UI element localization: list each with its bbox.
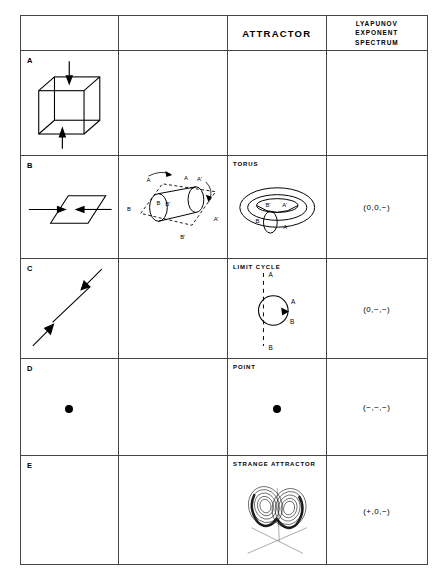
header-label-attractor: ATTRACTOR [228, 28, 326, 39]
table-header-row: ATTRACTOR LYAPUNOV EXPONENT SPECTRUM [21, 16, 427, 51]
cell-a-phase-space: A [21, 51, 119, 155]
header-cell-phase-space [21, 16, 119, 50]
row-letter-d: D [27, 364, 33, 373]
point-attractor-dot-icon [273, 405, 281, 413]
header-lyapunov-line-3: SPECTRUM [327, 38, 428, 47]
header-cell-evolution [119, 16, 228, 50]
label-cyl-Bprime2: B' [180, 234, 185, 240]
plane-with-inward-arrows-icon [21, 156, 118, 258]
label-lc-A: A [291, 298, 296, 305]
header-lyapunov-line-2: EXPONENT [327, 28, 428, 37]
point-dot-icon [65, 405, 73, 413]
cylinder-in-dashed-parallelogram-icon: A A A' B B B' A' B' [119, 156, 227, 258]
cell-e-lyapunov: (+,0,−) [327, 456, 428, 565]
lorenz-butterfly-icon [228, 456, 326, 565]
cell-e-evolution [119, 456, 228, 565]
label-lc-B-bottom: B [268, 344, 272, 351]
label-cyl-B: B [126, 206, 130, 212]
label-cyl-A2: A [184, 175, 188, 181]
label-cyl-A: A [146, 177, 150, 183]
cell-d-attractor: POINT [228, 359, 327, 455]
label-torus-A: A [283, 224, 287, 230]
attractor-classification-table: ATTRACTOR LYAPUNOV EXPONENT SPECTRUM A [20, 15, 428, 565]
label-cyl-Aprime: A' [196, 176, 201, 182]
cell-c-lyapunov: (0,−,−) [327, 259, 428, 358]
lyapunov-value-d: (−,−,−) [327, 403, 428, 412]
limit-cycle-icon: A A B B [228, 259, 326, 358]
label-torus-Bprime: B' [265, 202, 270, 208]
cell-e-phase-space: E [21, 456, 119, 565]
cell-a-attractor [228, 51, 327, 155]
label-lc-A-top: A [268, 271, 273, 278]
label-cyl-Aprime2: A' [213, 216, 218, 222]
header-cell-attractor: ATTRACTOR [228, 16, 327, 50]
cell-c-phase-space: C [21, 259, 119, 358]
cell-b-phase-space: B [21, 156, 119, 258]
lyapunov-value-e: (+,0,−) [327, 506, 428, 515]
attractor-label-d: POINT [233, 364, 256, 370]
table-row: C LIMIT CYCLE A A B [21, 259, 427, 359]
label-cyl-Bprime: B' [165, 202, 170, 208]
label-lc-B: B [290, 318, 294, 325]
table-row: A [21, 51, 427, 156]
table-row: E STRANGE ATTRACTOR [21, 456, 427, 565]
cell-b-lyapunov: (0,0,−) [327, 156, 428, 258]
lyapunov-value-c: (0,−,−) [327, 304, 428, 313]
cell-c-evolution [119, 259, 228, 358]
cell-d-phase-space: D [21, 359, 119, 455]
cell-e-attractor: STRANGE ATTRACTOR [228, 456, 327, 565]
cell-c-attractor: LIMIT CYCLE A A B B [228, 259, 327, 358]
header-lyapunov-line-1: LYAPUNOV [327, 19, 428, 28]
lyapunov-value-b: (0,0,−) [327, 203, 428, 212]
cell-a-evolution [119, 51, 228, 155]
row-letter-e: E [27, 461, 33, 470]
header-cell-lyapunov: LYAPUNOV EXPONENT SPECTRUM [327, 16, 428, 50]
cell-d-lyapunov: (−,−,−) [327, 359, 428, 455]
torus-icon: B' A' B A [228, 156, 326, 258]
label-torus-Aprime: A' [282, 202, 287, 208]
diagonal-line-with-inward-arrows-icon [21, 259, 118, 358]
label-cyl-B2: B [156, 200, 160, 206]
cell-b-attractor: TORUS B' A' B A [228, 156, 327, 258]
header-label-lyapunov: LYAPUNOV EXPONENT SPECTRUM [327, 19, 428, 47]
cell-d-evolution [119, 359, 228, 455]
label-torus-B: B [256, 218, 260, 224]
table-row: B [21, 156, 427, 259]
cell-a-lyapunov [327, 51, 428, 155]
cube-with-inward-arrows-icon [21, 51, 118, 155]
cell-b-evolution: A A A' B B B' A' B' [119, 156, 228, 258]
table-row: D POINT (−,−,−) [21, 359, 427, 456]
